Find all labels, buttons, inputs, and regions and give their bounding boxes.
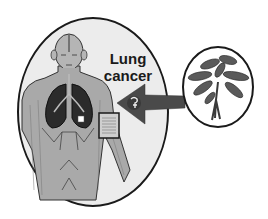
- disease-label-line2: cancer: [98, 68, 158, 83]
- tumor-marker: [78, 116, 84, 122]
- diagram: Lung cancer: [0, 0, 268, 219]
- diagram-svg: [0, 0, 268, 219]
- prescription-document: [99, 113, 119, 138]
- disease-label-line1: Lung: [103, 51, 153, 66]
